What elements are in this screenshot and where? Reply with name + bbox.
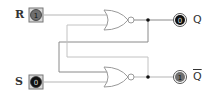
wire-q-feedback — [59, 20, 148, 72]
output-q-value: 0 — [178, 17, 182, 25]
input-s-value: 0 — [34, 79, 38, 87]
output-label-qbar: Q — [193, 71, 202, 82]
input-label-r: R — [15, 9, 24, 20]
sr-latch-diagram: 1 0 0 1 — [0, 0, 220, 96]
nor-gate-top — [104, 10, 134, 30]
output-qbar-value: 1 — [178, 74, 182, 82]
nor-bubble-bottom — [128, 74, 134, 80]
input-r-value: 1 — [34, 12, 38, 20]
junction-node-qbar — [146, 75, 150, 79]
input-switch-r[interactable]: 1 — [29, 8, 43, 22]
input-label-s: S — [15, 76, 23, 87]
junction-node-q — [146, 18, 150, 22]
output-lamp-q: 0 — [174, 14, 187, 27]
output-lamp-qbar: 1 — [174, 71, 187, 84]
input-switch-s[interactable]: 0 — [29, 75, 43, 89]
output-label-q: Q — [193, 14, 202, 25]
nor-bubble-top — [128, 17, 134, 23]
nor-gate-bottom — [104, 67, 134, 87]
